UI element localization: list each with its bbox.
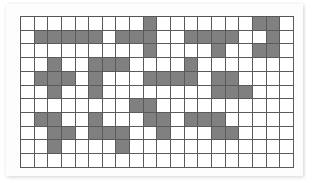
grid-cell-empty	[35, 86, 49, 100]
grid-cell-empty	[280, 99, 294, 113]
grid-cell-filled	[253, 17, 267, 31]
grid-cell-filled	[226, 31, 240, 45]
grid-cell-empty	[116, 99, 130, 113]
grid-cell-empty	[103, 72, 117, 86]
grid-cell-empty	[48, 154, 62, 168]
grid-cell-filled	[267, 44, 281, 58]
grid-cell-empty	[239, 140, 253, 154]
grid-cell-empty	[198, 86, 212, 100]
grid-cell-empty	[21, 99, 35, 113]
grid-cell-empty	[116, 72, 130, 86]
grid-cell-empty	[48, 99, 62, 113]
grid-cell-filled	[157, 72, 171, 86]
grid-cell-empty	[280, 44, 294, 58]
grid-cell-empty	[198, 127, 212, 141]
grid-cell-empty	[76, 72, 90, 86]
grid-cell-empty	[280, 140, 294, 154]
grid-cell-empty	[198, 99, 212, 113]
grid-cell-empty	[62, 44, 76, 58]
grid-cell-empty	[62, 154, 76, 168]
grid-cell-empty	[144, 86, 158, 100]
grid-cell-filled	[62, 31, 76, 45]
grid-cell-empty	[253, 86, 267, 100]
grid-cell-empty	[35, 58, 49, 72]
grid-cell-empty	[267, 72, 281, 86]
grid-cell-filled	[144, 31, 158, 45]
grid-cell-empty	[21, 58, 35, 72]
grid-cell-filled	[212, 31, 226, 45]
grid-cell-filled	[212, 44, 226, 58]
grid-cell-empty	[21, 31, 35, 45]
grid-cell-empty	[280, 113, 294, 127]
grid-cell-empty	[130, 113, 144, 127]
grid-cell-empty	[76, 113, 90, 127]
grid-cell-empty	[212, 99, 226, 113]
grid-cell-empty	[130, 127, 144, 141]
grid-cell-empty	[89, 17, 103, 31]
grid-cell-empty	[48, 17, 62, 31]
grid-cell-empty	[239, 72, 253, 86]
grid-cell-empty	[144, 58, 158, 72]
grid-cell-empty	[76, 99, 90, 113]
grid-cell-filled	[89, 58, 103, 72]
grid-cell-empty	[253, 31, 267, 45]
grid-cell-empty	[226, 99, 240, 113]
grid-cell-empty	[35, 154, 49, 168]
grid-cell-empty	[103, 86, 117, 100]
grid-cell-filled	[157, 113, 171, 127]
grid-cell-empty	[239, 44, 253, 58]
grid-cell-filled	[89, 113, 103, 127]
grid-cell-empty	[253, 140, 267, 154]
grid-cell-empty	[171, 140, 185, 154]
grid-cell-empty	[267, 113, 281, 127]
grid-cell-filled	[48, 72, 62, 86]
grid-cell-empty	[144, 127, 158, 141]
grid-cell-empty	[185, 17, 199, 31]
grid-cell-empty	[212, 140, 226, 154]
grid-cell-filled	[185, 31, 199, 45]
grid-cell-empty	[267, 154, 281, 168]
grid-cell-filled	[212, 72, 226, 86]
grid-cell-empty	[171, 17, 185, 31]
grid-cell-empty	[185, 44, 199, 58]
grid-cell-filled	[267, 17, 281, 31]
grid-cell-empty	[35, 127, 49, 141]
grid-cell-filled	[89, 72, 103, 86]
grid-cell-filled	[48, 31, 62, 45]
grid-cell-empty	[89, 44, 103, 58]
grid-cell-empty	[21, 127, 35, 141]
grid-cell-empty	[253, 127, 267, 141]
grid-cell-empty	[144, 154, 158, 168]
grid-cell-empty	[185, 127, 199, 141]
grid-cell-empty	[144, 140, 158, 154]
grid-cell-empty	[157, 17, 171, 31]
grid-cell-filled	[198, 31, 212, 45]
grid-cell-empty	[35, 17, 49, 31]
grid-cell-empty	[198, 154, 212, 168]
grid-cell-empty	[21, 140, 35, 154]
grid-cell-empty	[21, 113, 35, 127]
grid-cell-filled	[239, 86, 253, 100]
grid-cell-filled	[89, 86, 103, 100]
grid-cell-empty	[239, 99, 253, 113]
grid-cell-filled	[35, 113, 49, 127]
grid-cell-empty	[62, 86, 76, 100]
grid-cell-empty	[171, 154, 185, 168]
grid-cell-empty	[226, 140, 240, 154]
grid-cell-filled	[144, 72, 158, 86]
grid-cell-empty	[253, 99, 267, 113]
grid-cell-empty	[226, 154, 240, 168]
grid-cell-empty	[76, 154, 90, 168]
grid-cell-filled	[62, 127, 76, 141]
grid-cell-empty	[130, 72, 144, 86]
grid-cell-empty	[171, 99, 185, 113]
grid-cell-empty	[103, 113, 117, 127]
grid-cell-empty	[130, 140, 144, 154]
grid-cell-empty	[267, 86, 281, 100]
pixel-grid	[20, 16, 294, 168]
grid-cell-empty	[116, 44, 130, 58]
grid-cell-filled	[48, 127, 62, 141]
grid-cell-filled	[62, 72, 76, 86]
grid-cell-empty	[76, 86, 90, 100]
grid-cell-filled	[130, 31, 144, 45]
